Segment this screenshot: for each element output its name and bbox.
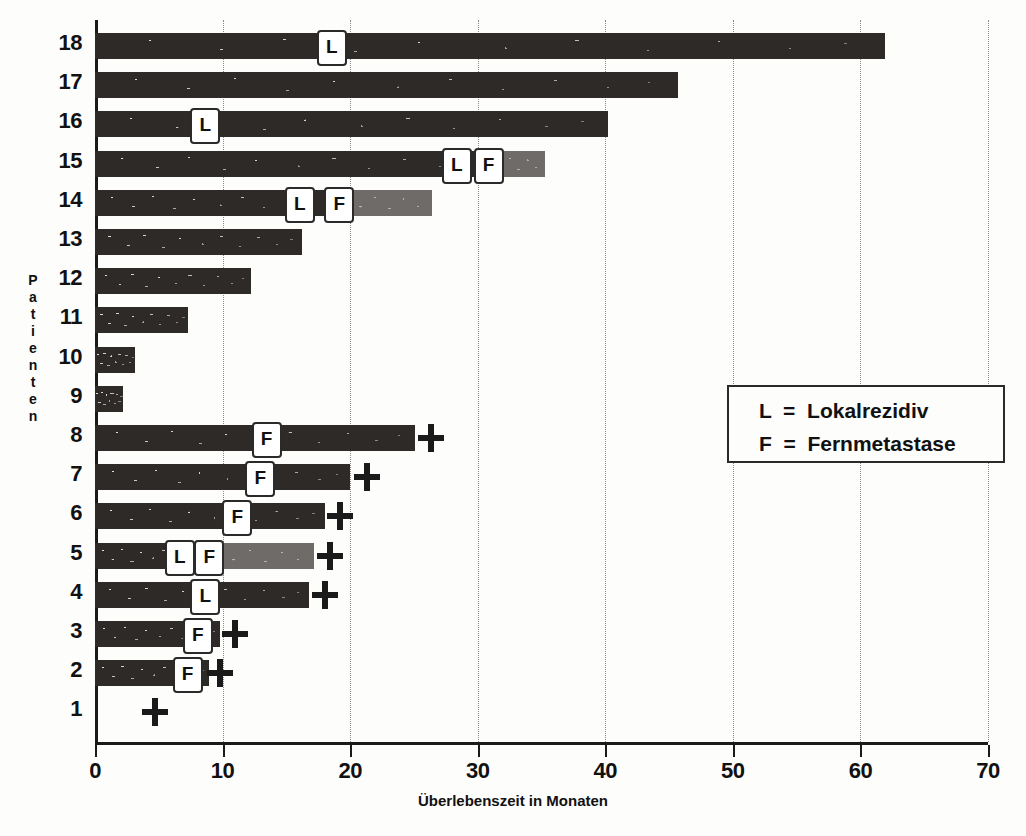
legend-box: L = Lokalrezidiv F = Fernmetastase	[727, 385, 1005, 463]
bar-row	[95, 503, 325, 529]
bar-segment-dark	[95, 229, 302, 255]
y-axis-tick-label: 1	[38, 696, 82, 722]
marker-death-cross	[142, 698, 168, 726]
bar-segment-dark	[95, 464, 350, 490]
gridline	[733, 20, 735, 742]
bar-segment-dark	[95, 503, 325, 529]
x-axis-tick	[478, 745, 480, 757]
legend-entry-L: L = Lokalrezidiv	[729, 394, 1003, 427]
marker-distant-metastasis: F	[474, 148, 504, 184]
marker-death-cross	[418, 424, 444, 452]
bar-row	[95, 190, 432, 216]
y-axis-tick-label: 10	[38, 344, 82, 370]
y-axis-tick-label: 6	[38, 500, 82, 526]
x-axis-tick	[95, 745, 97, 757]
x-axis-tick-label: 70	[958, 758, 1018, 784]
y-axis-tick-label: 14	[38, 187, 82, 213]
marker-local-recurrence: L	[442, 148, 472, 184]
y-axis-tick-label: 7	[38, 461, 82, 487]
bar-segment-dark	[95, 347, 135, 373]
x-axis-tick-label: 60	[830, 758, 890, 784]
bar-row	[95, 386, 123, 412]
y-axis-tick-label: 13	[38, 226, 82, 252]
x-axis-tick	[605, 745, 607, 757]
marker-local-recurrence: L	[317, 30, 347, 66]
bar-row	[95, 464, 350, 490]
marker-distant-metastasis: F	[245, 461, 275, 497]
y-axis-tick-label: 2	[38, 657, 82, 683]
marker-death-cross	[312, 581, 338, 609]
marker-death-cross	[222, 620, 248, 648]
marker-local-recurrence: L	[190, 579, 220, 615]
marker-distant-metastasis: F	[194, 540, 224, 576]
y-axis-tick-label: 15	[38, 148, 82, 174]
bar-segment-dark	[95, 111, 608, 137]
x-axis-tick-label: 0	[65, 758, 125, 784]
x-axis-tick	[350, 745, 352, 757]
survival-chart: Patienten 181716151413121110987654321 01…	[0, 0, 1026, 836]
bar-row	[95, 229, 302, 255]
x-axis-tick-label: 50	[703, 758, 763, 784]
x-axis-tick-label: 30	[448, 758, 508, 784]
x-axis-tick-label: 20	[320, 758, 380, 784]
x-axis-line	[95, 742, 988, 745]
marker-death-cross	[207, 659, 233, 687]
bar-segment-dark	[95, 33, 885, 59]
bar-row	[95, 268, 251, 294]
marker-distant-metastasis: F	[183, 618, 213, 654]
x-axis-title: Überlebenszeit in Monaten	[0, 792, 1026, 809]
x-axis-tick	[733, 745, 735, 757]
bar-segment-dark	[95, 386, 123, 412]
marker-death-cross	[354, 463, 380, 491]
marker-local-recurrence: L	[190, 108, 220, 144]
x-axis-tick	[988, 745, 990, 757]
y-axis-tick-label: 8	[38, 422, 82, 448]
gridline	[988, 20, 990, 742]
bar-row	[95, 111, 608, 137]
marker-distant-metastasis: F	[173, 657, 203, 693]
gridline	[860, 20, 862, 742]
marker-local-recurrence: L	[285, 187, 315, 223]
y-axis-tick-label: 18	[38, 30, 82, 56]
x-axis-tick	[860, 745, 862, 757]
x-axis-tick	[223, 745, 225, 757]
bar-segment-dark	[95, 307, 188, 333]
y-axis-tick-label: 9	[38, 383, 82, 409]
marker-local-recurrence: L	[165, 540, 195, 576]
y-axis-tick-label: 17	[38, 69, 82, 95]
marker-distant-metastasis: F	[324, 187, 354, 223]
x-axis-tick-label: 40	[575, 758, 635, 784]
bar-row	[95, 347, 135, 373]
marker-distant-metastasis: F	[222, 500, 252, 536]
marker-death-cross	[317, 542, 343, 570]
y-axis-tick-label: 4	[38, 579, 82, 605]
y-axis-tick-label: 12	[38, 265, 82, 291]
bar-row	[95, 307, 188, 333]
bar-row	[95, 33, 885, 59]
marker-distant-metastasis: F	[252, 422, 282, 458]
y-axis-tick-label: 5	[38, 540, 82, 566]
bar-segment-dark	[95, 72, 678, 98]
legend-entry-F: F = Fernmetastase	[729, 427, 1003, 460]
y-axis-tick-label: 3	[38, 618, 82, 644]
bar-row	[95, 72, 678, 98]
y-axis-tick-label: 11	[38, 304, 82, 330]
x-axis-tick-label: 10	[193, 758, 253, 784]
bar-segment-dark	[95, 151, 487, 177]
marker-death-cross	[327, 502, 353, 530]
y-axis-tick-label: 16	[38, 108, 82, 134]
bar-segment-dark	[95, 268, 251, 294]
